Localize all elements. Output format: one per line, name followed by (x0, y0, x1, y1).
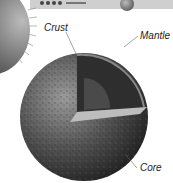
moon (120, 0, 134, 11)
mantle-leader-line (124, 36, 138, 47)
crust-label: Crust (44, 22, 68, 33)
sun-edge (0, 0, 30, 75)
earth-layers-diagram (0, 0, 173, 183)
mantle-label: Mantle (140, 30, 170, 41)
top-strip (30, 0, 173, 9)
core-label: Core (140, 162, 162, 173)
crust-leader-line (66, 32, 76, 54)
